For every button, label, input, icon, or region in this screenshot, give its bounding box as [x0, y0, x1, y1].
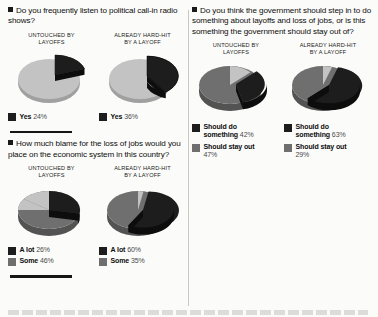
caption-line-1: ALREADY HARD-HIT: [284, 42, 372, 49]
legend-swatch-mid: [284, 144, 292, 152]
chart-cell-hardhit: ALREADY HARD-HIT BY A LAYOFF: [99, 165, 186, 268]
legend-radio-untouched: Yes 24%: [8, 113, 95, 122]
legend-blame-untouched: A lot 26% Some 46%: [8, 246, 95, 266]
question-block-radio-shows: Do you frequently listen to political ca…: [8, 6, 186, 133]
legend-swatch-mid: [192, 144, 200, 152]
legend-text: Should stay out 29%: [296, 143, 362, 159]
square-bullet-icon: [8, 7, 13, 12]
chart-cell-hardhit: ALREADY HARD-HIT BY A LAYOFF: [284, 42, 372, 163]
pie-chart-government-hardhit: [284, 57, 372, 121]
legend-row: Yes 24%: [8, 113, 95, 122]
legend-value: 60%: [127, 246, 141, 253]
section-rule: [10, 131, 72, 134]
question-text: How much blame for the loss of jobs woul…: [8, 139, 181, 158]
legend-swatch-dark: [284, 124, 292, 132]
chart-cell-untouched: UNTOUCHED BY LAYOFFS: [8, 32, 95, 124]
caption-line-1: UNTOUCHED BY: [8, 165, 95, 172]
legend-row: Some 46%: [8, 257, 95, 266]
legend-row: A lot 60%: [99, 246, 186, 255]
square-bullet-icon: [8, 140, 13, 145]
legend-value: 24%: [33, 113, 47, 120]
pie-svg: [9, 180, 95, 240]
legend-text: Yes 36%: [111, 113, 138, 121]
legend-label: Should stay out: [204, 143, 255, 150]
legend-government-untouched: Should do something 42% Should stay out …: [192, 123, 280, 159]
legend-label: Should do something: [296, 123, 331, 138]
legend-row: A lot 26%: [8, 246, 95, 255]
pie-svg: [9, 47, 95, 109]
caption-line-2: BY A LAYOFF: [99, 172, 186, 179]
legend-swatch-dark: [99, 113, 107, 121]
legend-label: Yes: [111, 113, 123, 120]
chart-cell-untouched: UNTOUCHED BY LAYOFFS: [8, 165, 95, 268]
legend-row: Should do something 42%: [192, 123, 280, 139]
legend-swatch-mid: [8, 258, 16, 266]
question-text: Do you think the government should step …: [192, 6, 371, 36]
question-heading: Do you frequently listen to political ca…: [8, 6, 186, 27]
caption-line-1: ALREADY HARD-HIT: [99, 32, 186, 39]
legend-text: Some 46%: [20, 257, 54, 265]
legend-text: Should do something 63%: [296, 123, 362, 139]
legend-row: Some 35%: [99, 257, 186, 266]
group-caption: UNTOUCHED BY LAYOFFS: [8, 32, 95, 47]
legend-text: Some 35%: [111, 257, 145, 265]
legend-swatch-dark: [8, 247, 16, 255]
legend-text: A lot 26%: [20, 246, 50, 254]
caption-line-1: UNTOUCHED BY: [192, 42, 280, 49]
legend-text: A lot 60%: [111, 246, 141, 254]
legend-value: 42%: [240, 131, 254, 138]
legend-label: Yes: [20, 113, 32, 120]
footnote-strip: [8, 310, 368, 315]
legend-label: Should stay out: [296, 143, 347, 150]
legend-text: Should do something 42%: [204, 123, 270, 139]
square-bullet-icon: [192, 7, 197, 12]
legend-label: Should do something: [204, 123, 239, 138]
legend-row: Should do something 63%: [284, 123, 372, 139]
group-caption: ALREADY HARD-HIT BY A LAYOFF: [99, 32, 186, 47]
question-heading: Do you think the government should step …: [192, 6, 372, 37]
chart-pair: UNTOUCHED BY LAYOFFS: [8, 32, 186, 124]
legend-row: Should stay out 29%: [284, 143, 372, 159]
question-text: Do you frequently listen to political ca…: [8, 6, 177, 25]
question-block-blame: How much blame for the loss of jobs woul…: [8, 139, 186, 277]
caption-line-1: ALREADY HARD-HIT: [99, 165, 186, 172]
left-column: Do you frequently listen to political ca…: [8, 6, 186, 284]
caption-line-2: LAYOFFS: [8, 172, 95, 179]
legend-value: 46%: [40, 257, 54, 264]
legend-text: Should stay out 47%: [204, 143, 270, 159]
legend-swatch-dark: [192, 124, 200, 132]
caption-line-2: BY A LAYOFF: [284, 49, 372, 56]
section-rule: [10, 275, 72, 278]
group-caption: ALREADY HARD-HIT BY A LAYOFF: [99, 165, 186, 180]
group-caption: UNTOUCHED BY LAYOFFS: [8, 165, 95, 180]
legend-row: Should stay out 47%: [192, 143, 280, 159]
legend-value: 26%: [36, 246, 50, 253]
legend-row: Yes 36%: [99, 113, 186, 122]
chart-cell-untouched: UNTOUCHED BY LAYOFFS: [192, 42, 280, 163]
legend-label: Some: [111, 257, 130, 264]
pie-chart-radio-untouched: [8, 47, 95, 111]
pie-chart-blame-hardhit: [99, 180, 186, 244]
legend-value: 63%: [332, 131, 346, 138]
legend-label: Some: [20, 257, 39, 264]
legend-radio-hardhit: Yes 36%: [99, 113, 186, 122]
group-caption: ALREADY HARD-HIT BY A LAYOFF: [284, 42, 372, 57]
caption-line-2: LAYOFFS: [192, 49, 280, 56]
chart-pair: UNTOUCHED BY LAYOFFS: [8, 165, 186, 268]
pie-chart-blame-untouched: [8, 180, 95, 244]
chart-pair: UNTOUCHED BY LAYOFFS: [192, 42, 372, 163]
pie-chart-government-untouched: [192, 57, 280, 121]
right-column: Do you think the government should step …: [192, 6, 372, 163]
legend-text: Yes 24%: [20, 113, 47, 121]
column-divider: [188, 10, 189, 306]
caption-line-2: BY A LAYOFF: [99, 39, 186, 46]
legend-swatch-dark: [8, 113, 16, 121]
infographic-page: Do you frequently listen to political ca…: [0, 0, 378, 317]
legend-value: 36%: [124, 113, 138, 120]
question-heading: How much blame for the loss of jobs woul…: [8, 139, 186, 160]
legend-swatch-mid: [99, 258, 107, 266]
legend-value: 29%: [296, 151, 310, 158]
caption-line-1: UNTOUCHED BY: [8, 32, 95, 39]
pie-svg: [285, 57, 371, 117]
pie-chart-radio-hardhit: [99, 47, 186, 111]
